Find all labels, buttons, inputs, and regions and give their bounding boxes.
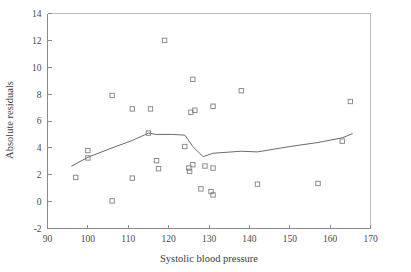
x-tick-label: 160	[323, 234, 338, 244]
plot-background	[0, 0, 411, 272]
y-tick-label: 8	[37, 90, 42, 100]
x-tick-label: 170	[363, 234, 378, 244]
y-tick-label: 2	[37, 170, 42, 180]
y-tick-label: 0	[37, 197, 42, 207]
x-tick-label: 150	[283, 234, 298, 244]
y-tick-label: 10	[32, 63, 42, 73]
y-tick-label: -2	[34, 224, 42, 234]
y-tick-label: 14	[32, 9, 42, 19]
x-axis-tick-labels: 90100110120130140150160170	[43, 234, 378, 244]
scatter-plot: 90100110120130140150160170 -202468101214…	[0, 0, 411, 272]
y-tick-label: 12	[32, 36, 42, 46]
figure-container: 90100110120130140150160170 -202468101214…	[0, 0, 411, 272]
x-tick-label: 130	[202, 234, 217, 244]
y-tick-label: 4	[37, 143, 42, 153]
x-tick-label: 100	[81, 234, 96, 244]
x-tick-label: 140	[242, 234, 257, 244]
x-axis-title: Systolic blood pressure	[160, 253, 258, 264]
x-tick-label: 90	[43, 234, 53, 244]
y-axis-title: Absolute residuals	[4, 81, 15, 159]
y-tick-label: 6	[37, 116, 42, 126]
x-tick-label: 120	[162, 234, 177, 244]
x-tick-label: 110	[121, 234, 135, 244]
